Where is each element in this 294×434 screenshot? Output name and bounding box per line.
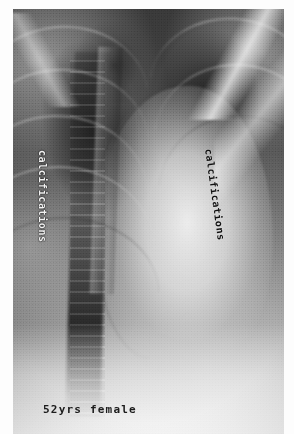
patient-info-label: 52yrs female <box>43 403 137 416</box>
radiograph-page: calcifications calcifications 52yrs fema… <box>0 0 294 434</box>
calcification-label-left: calcifications <box>37 150 48 243</box>
film-vignette <box>13 9 284 434</box>
chest-xray-image <box>13 9 284 434</box>
